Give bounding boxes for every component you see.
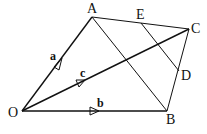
point-label-e: E <box>136 7 145 22</box>
point-label-d: D <box>181 68 191 83</box>
point-label-o: O <box>8 105 18 120</box>
vector-label-c: c <box>80 66 86 80</box>
vector-label-b: b <box>97 96 104 110</box>
point-label-a: A <box>87 1 98 16</box>
geometry-diagram: O A E C D B a c b <box>0 0 207 134</box>
segment-ed <box>141 23 179 71</box>
vector-c-line <box>22 29 189 111</box>
point-label-b: B <box>166 112 175 127</box>
point-label-c: C <box>191 21 200 36</box>
vector-label-a: a <box>50 49 56 63</box>
arrow-c-icon <box>76 80 85 87</box>
